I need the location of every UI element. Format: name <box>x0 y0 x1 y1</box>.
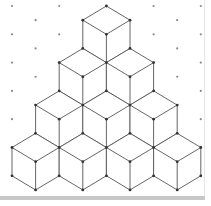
cube-vertex <box>129 160 132 163</box>
cube-vertex <box>81 19 84 22</box>
cube-vertex <box>105 174 108 177</box>
cube-vertex <box>105 146 108 149</box>
cube-vertex <box>58 174 61 177</box>
cube-vertex <box>199 146 202 149</box>
grid-dot <box>35 19 37 21</box>
cube-vertex <box>11 146 14 149</box>
grid-dot <box>200 90 202 92</box>
grid-dot <box>153 5 155 7</box>
cube-vertex <box>81 104 84 107</box>
grid-dot <box>200 62 202 64</box>
grid-dot <box>35 76 37 78</box>
grid-dot <box>11 5 13 7</box>
cube-vertex <box>81 189 84 192</box>
cube-vertex <box>34 132 37 135</box>
grid-dot <box>176 76 178 78</box>
right-border <box>204 0 205 199</box>
grid-dot <box>35 47 37 49</box>
cube-vertex <box>58 61 61 64</box>
cube-vertex <box>58 146 61 149</box>
cube-vertex <box>105 90 108 93</box>
cube-vertex <box>81 47 84 50</box>
cube-vertex <box>152 146 155 149</box>
cube-vertex <box>105 118 108 121</box>
cube-vertex <box>152 174 155 177</box>
cube-vertex <box>176 160 179 163</box>
cube-vertex <box>176 132 179 135</box>
cube-vertex <box>105 5 108 8</box>
cube-vertex <box>129 47 132 50</box>
cube-vertex <box>34 189 37 192</box>
grid-dot <box>11 33 13 35</box>
grid-dot <box>11 118 13 120</box>
cube-vertex <box>199 174 202 177</box>
cube-vertex <box>129 19 132 22</box>
cube-vertex <box>176 189 179 192</box>
cube-vertex <box>152 118 155 121</box>
cube-vertex <box>81 160 84 163</box>
isometric-dot-paper <box>0 0 205 196</box>
grid-dot <box>176 19 178 21</box>
grid-dot <box>58 33 60 35</box>
grid-dot <box>153 33 155 35</box>
cube-vertex <box>34 104 37 107</box>
cube-vertex <box>81 75 84 78</box>
cube-vertex <box>129 132 132 135</box>
cube-vertex <box>58 118 61 121</box>
cube-vertex <box>105 61 108 64</box>
grid-dot <box>11 62 13 64</box>
cube-vertex <box>176 104 179 107</box>
cube-vertex <box>58 90 61 93</box>
grid-dot <box>200 5 202 7</box>
cube-vertex <box>129 104 132 107</box>
grid-dot <box>11 90 13 92</box>
cube-vertex <box>105 33 108 36</box>
cube-vertex <box>129 75 132 78</box>
cube-vertex <box>152 90 155 93</box>
grid-dot <box>176 47 178 49</box>
grid-dot <box>200 33 202 35</box>
cube-vertex <box>152 61 155 64</box>
cube-vertex <box>11 174 14 177</box>
grid-dot <box>200 118 202 120</box>
cube-vertex <box>34 160 37 163</box>
cube-pyramid-diagram <box>0 0 205 196</box>
bottom-bar <box>0 196 205 200</box>
cube-vertex <box>129 189 132 192</box>
grid-dot <box>58 5 60 7</box>
cube-vertex <box>81 132 84 135</box>
